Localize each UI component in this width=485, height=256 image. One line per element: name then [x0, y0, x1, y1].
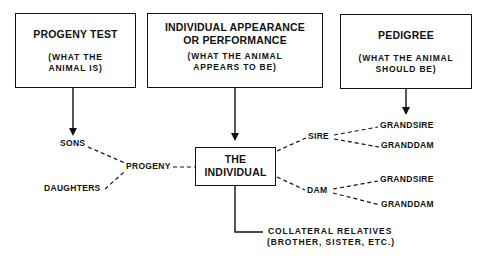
progeny-test-subtitle-line2: ANIMAL IS): [16, 63, 135, 74]
progeny-test-box: PROGENY TEST (WHAT THE ANIMAL IS): [15, 13, 136, 88]
individual-appearance-box: INDIVIDUAL APPEARANCE OR PERFORMANCE (WH…: [147, 13, 323, 88]
individual-appearance-title-line1: INDIVIDUAL APPEARANCE: [148, 21, 322, 34]
the-individual-title-line1: THE: [196, 153, 275, 166]
dam-label: DAM: [307, 185, 327, 195]
progeny-label: PROGENY: [126, 161, 171, 171]
individual-appearance-title-line2: OR PERFORMANCE: [148, 34, 322, 47]
the-individual-box: THE INDIVIDUAL: [195, 147, 276, 186]
pedigree-subtitle-line1: (WHAT THE ANIMAL: [341, 53, 471, 64]
daughters-label: DAUGHTERS: [44, 183, 101, 193]
sire-grandsire-label: GRANDSIRE: [380, 120, 434, 130]
progeny-test-subtitle-line1: (WHAT THE: [16, 52, 135, 63]
collateral-relatives-examples: (BROTHER, SISTER, ETC.): [267, 237, 395, 247]
pedigree-title: PEDIGREE: [341, 29, 471, 42]
collateral-relatives-label: COLLATERAL RELATIVES: [268, 226, 392, 236]
the-individual-title-line2: INDIVIDUAL: [196, 166, 275, 179]
sire-granddam-label: GRANDDAM: [381, 140, 434, 150]
pedigree-box: PEDIGREE (WHAT THE ANIMAL SHOULD BE): [340, 14, 472, 89]
progeny-test-title: PROGENY TEST: [16, 28, 135, 41]
individual-appearance-subtitle-line1: (WHAT THE ANIMAL: [148, 51, 322, 62]
pedigree-subtitle-line2: SHOULD BE): [341, 64, 471, 75]
individual-appearance-subtitle-line2: APPEARS TO BE): [148, 62, 322, 73]
sons-label: SONS: [60, 138, 85, 148]
dam-granddam-label: GRANDDAM: [381, 199, 434, 209]
dam-grandsire-label: GRANDSIRE: [380, 174, 434, 184]
sire-label: SIRE: [308, 131, 329, 141]
